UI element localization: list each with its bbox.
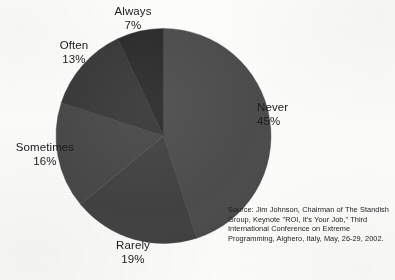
pie-label-always: Always 7% [88,5,178,32]
pie-label-sometimes-name: Sometimes [0,141,91,155]
source-citation: Source: Jim Johnson, Chairman of The Sta… [228,205,394,243]
pie-label-rarely-name: Rarely [88,239,178,253]
pie-label-always-value: 7% [88,19,178,33]
pie-label-often-value: 13% [33,53,115,67]
pie-label-always-name: Always [88,5,178,19]
pie-label-often-name: Often [33,39,115,53]
pie-label-sometimes-value: 16% [0,155,91,169]
pie-chart-figure: Always 7% Often 13% Sometimes 16% Rarely… [0,0,395,280]
pie-label-rarely-value: 19% [88,253,178,267]
pie-label-rarely: Rarely 19% [88,239,178,266]
pie-label-sometimes: Sometimes 16% [0,141,91,168]
pie-label-never: Never 45% [257,101,341,128]
pie-label-never-value: 45% [257,115,341,129]
pie-label-often: Often 13% [33,39,115,66]
pie-label-never-name: Never [257,101,341,115]
